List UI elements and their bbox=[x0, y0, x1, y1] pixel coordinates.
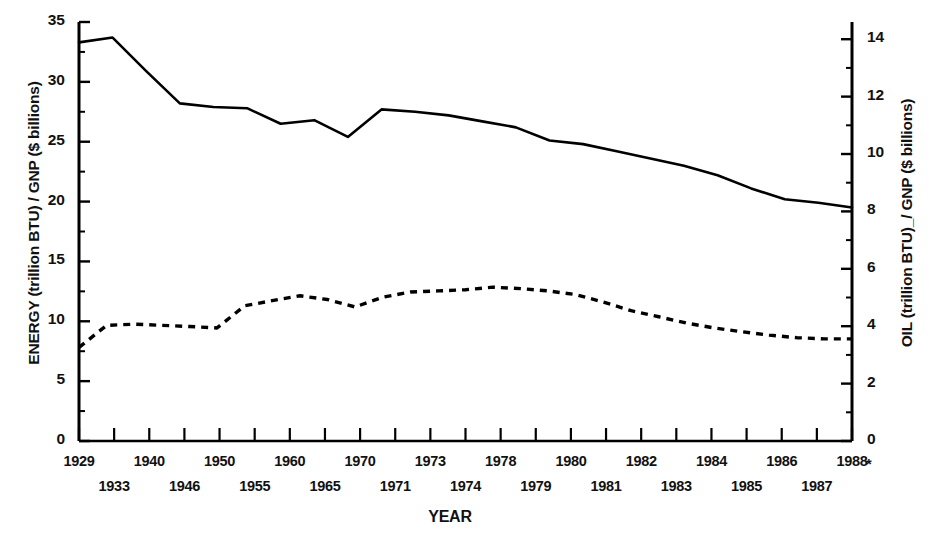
axis-tick-marks bbox=[79, 22, 852, 441]
plot-area bbox=[0, 0, 940, 541]
series-line-energy bbox=[79, 38, 852, 208]
chart-figure: ENERGY (trillion BTU) / GNP ($ billions)… bbox=[0, 0, 940, 541]
series-line-oil bbox=[79, 287, 852, 347]
axis-lines bbox=[79, 22, 852, 441]
